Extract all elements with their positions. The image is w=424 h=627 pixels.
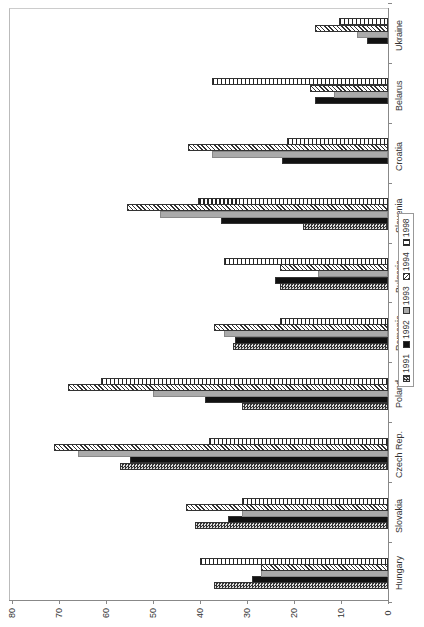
- legend-swatch-icon: [403, 273, 410, 280]
- value-tick-label: 10: [336, 603, 346, 623]
- category-tick: [388, 362, 392, 363]
- category-axis: [388, 8, 389, 600]
- bar-1992-ukraine: [367, 37, 388, 44]
- bar-1993-ukraine: [357, 31, 388, 38]
- value-tick-label: 40: [195, 603, 205, 623]
- bar-1998-czechrep: [209, 438, 388, 445]
- category-tick: [388, 3, 392, 4]
- legend-swatch-icon: [403, 239, 410, 246]
- category-tick: [388, 63, 392, 64]
- category-tick: [388, 482, 392, 483]
- legend-label: 1991: [401, 354, 411, 373]
- category-tick: [388, 542, 392, 543]
- category-tick: [388, 123, 392, 124]
- category-tick: [388, 183, 392, 184]
- bar-1991-bulgaria: [280, 283, 388, 290]
- bar-1994-hungary: [261, 564, 388, 571]
- value-axis: [9, 600, 389, 601]
- legend-swatch-icon: [403, 307, 410, 314]
- legend-swatch-icon: [403, 341, 410, 348]
- category-label: Czech Rep.: [394, 431, 404, 478]
- legend-item: 1993: [401, 286, 411, 314]
- legend-label: 1993: [401, 286, 411, 305]
- bar-1998-bulgaria: [224, 258, 389, 265]
- category-label: Belarus: [394, 80, 404, 111]
- value-tick-label: 60: [101, 603, 111, 623]
- bar-1998-hungary: [200, 558, 388, 565]
- legend-label: 1992: [401, 320, 411, 339]
- bar-1991-hungary: [214, 582, 388, 589]
- legend-item: 1992: [401, 320, 411, 348]
- category-tick: [388, 302, 392, 303]
- bar-1998-romania: [280, 318, 388, 325]
- bar-1993-croatia: [212, 151, 388, 158]
- bar-1992-croatia: [282, 157, 388, 164]
- bar-1994-ukraine: [315, 25, 388, 32]
- category-tick: [388, 243, 392, 244]
- bar-1993-hungary: [261, 570, 388, 577]
- bar-1993-slovakia: [242, 510, 388, 517]
- category-tick: [388, 422, 392, 423]
- bar-1994-slovakia: [186, 504, 388, 511]
- bar-1994-belarus: [310, 85, 388, 92]
- bar-1993-bulgaria: [318, 270, 389, 277]
- bar-1998-croatia: [287, 138, 388, 145]
- category-tick: [388, 602, 392, 603]
- bar-1991-poland: [242, 403, 388, 410]
- bar-1993-belarus: [334, 91, 388, 98]
- bar-1998-slovenia: [198, 198, 388, 205]
- legend-label: 1998: [401, 218, 411, 237]
- bar-1993-romania: [224, 330, 389, 337]
- bar-1991-slovakia: [195, 522, 388, 529]
- value-tick-label: 20: [289, 603, 299, 623]
- bar-1992-belarus: [315, 97, 388, 104]
- bar-1994-croatia: [188, 144, 388, 151]
- bar-1994-poland: [68, 384, 388, 391]
- bar-1998-poland: [101, 378, 388, 385]
- value-tick-label: 80: [7, 603, 17, 623]
- bar-1991-romania: [233, 343, 388, 350]
- bar-chart: 01020304050607080HungarySlovakiaCzech Re…: [0, 0, 424, 627]
- legend-item: 1998: [401, 218, 411, 246]
- category-label: Hungary: [394, 556, 404, 590]
- legend-swatch-icon: [403, 375, 410, 382]
- bar-1992-romania: [235, 337, 388, 344]
- legend-label: 1994: [401, 252, 411, 271]
- category-label: Croatia: [394, 142, 404, 171]
- value-tick-label: 50: [148, 603, 158, 623]
- bar-1994-slovenia: [127, 204, 388, 211]
- bar-1998-belarus: [212, 78, 388, 85]
- bar-1991-slovenia: [303, 223, 388, 230]
- category-label: Slovakia: [394, 499, 404, 533]
- bar-1991-czechrep: [120, 463, 388, 470]
- bar-1993-czechrep: [78, 450, 388, 457]
- value-tick-label: 70: [54, 603, 64, 623]
- value-tick-label: 0: [383, 603, 393, 623]
- bar-1992-bulgaria: [275, 277, 388, 284]
- bar-1994-romania: [214, 324, 388, 331]
- bar-1993-slovenia: [160, 211, 388, 218]
- legend-items: 19911992199319941998: [399, 210, 413, 386]
- bar-1992-slovenia: [221, 217, 388, 224]
- bar-1994-czechrep: [54, 444, 388, 451]
- bar-1992-czechrep: [130, 456, 389, 463]
- bar-1998-ukraine: [339, 18, 388, 25]
- legend-item: 1991: [401, 354, 411, 382]
- bar-1993-poland: [153, 390, 388, 397]
- legend: 19911992199319941998: [398, 213, 414, 387]
- bar-1992-hungary: [252, 576, 388, 583]
- bar-1992-slovakia: [228, 516, 388, 523]
- bar-1998-slovakia: [242, 498, 388, 505]
- category-label: Ukraine: [394, 20, 404, 51]
- value-tick-label: 30: [242, 603, 252, 623]
- bar-1992-poland: [205, 396, 388, 403]
- bar-1994-bulgaria: [280, 264, 388, 271]
- legend-item: 1994: [401, 252, 411, 280]
